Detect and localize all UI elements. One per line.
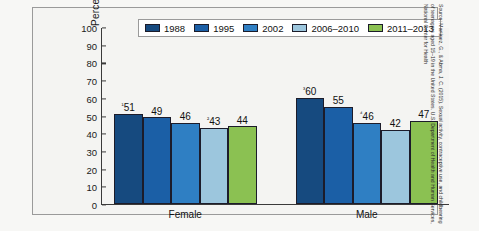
chart-legend: 1988199520022006–20102011–2013 — [138, 19, 441, 37]
y-axis-tick-label: 30 — [68, 146, 102, 157]
y-axis-tick-label: 50 — [68, 111, 102, 122]
y-axis-tick-label: 0 — [68, 200, 102, 211]
bar-female-2011_2013: 44 — [228, 126, 257, 204]
bar-female-2006_2010: ²43 — [200, 128, 229, 204]
legend-swatch-icon — [194, 24, 209, 32]
bar-value-label: 55 — [333, 95, 344, 106]
bar-male-2002: ⁴46 — [353, 123, 382, 204]
bar-female-1988: ¹51 — [114, 114, 143, 204]
bar-value-label: 46 — [180, 111, 191, 122]
legend-label: 1988 — [164, 23, 185, 34]
y-axis-tick-label: 80 — [68, 58, 102, 69]
bar-male-2006_2010: 42 — [381, 130, 410, 204]
legend-item-1995[interactable]: 1995 — [194, 23, 234, 34]
legend-swatch-icon — [145, 24, 160, 32]
bar-male-1995: 55 — [324, 107, 353, 204]
y-axis-tick-label: 60 — [68, 93, 102, 104]
bar-value-label: 42 — [390, 118, 401, 129]
source-note: Source: Martinez, G., & Abma, J. C. (201… — [421, 4, 444, 226]
bars-layer: ¹514946²4344³6055⁴464247 — [102, 28, 449, 204]
legend-item-2006_2010[interactable]: 2006–2010 — [292, 23, 359, 34]
chart-frame: Percent 1009080706050403020100 ¹514946²4… — [32, 7, 438, 215]
y-axis-tick-label: 10 — [68, 182, 102, 193]
y-axis-tick-label: 20 — [68, 164, 102, 175]
bar-male-1988: ³60 — [296, 98, 325, 204]
bar-female-1995: 49 — [143, 117, 172, 204]
legend-swatch-icon — [243, 24, 258, 32]
bar-value-label: 44 — [237, 115, 248, 126]
bar-value-label: 49 — [151, 106, 162, 117]
bar-value-label: ³60 — [303, 86, 316, 97]
legend-swatch-icon — [368, 24, 383, 32]
plot-area: Percent 1009080706050403020100 ¹514946²4… — [101, 28, 449, 205]
legend-swatch-icon — [292, 24, 307, 32]
y-axis-tick-label: 40 — [68, 129, 102, 140]
bar-value-label: ²43 — [207, 116, 220, 127]
bar-female-2002: 46 — [171, 123, 200, 204]
x-axis-label-female: Female — [169, 209, 202, 220]
bar-value-label: ¹51 — [122, 102, 135, 113]
legend-label: 2006–2010 — [311, 23, 359, 34]
legend-label: 2002 — [262, 23, 283, 34]
y-axis-tick-label: 90 — [68, 40, 102, 51]
x-axis-label-male: Male — [356, 209, 378, 220]
y-axis-tick-mark — [102, 204, 106, 205]
legend-item-2002[interactable]: 2002 — [243, 23, 283, 34]
legend-label: 1995 — [213, 23, 234, 34]
y-axis-tick-label: 70 — [68, 76, 102, 87]
bar-value-label: ⁴46 — [360, 111, 374, 122]
figure-container: Percent 1009080706050403020100 ¹514946²4… — [0, 0, 479, 231]
legend-item-1988[interactable]: 1988 — [145, 23, 185, 34]
y-axis-tick-label: 100 — [68, 23, 102, 34]
